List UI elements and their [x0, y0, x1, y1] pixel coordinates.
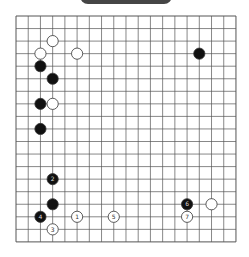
move-number: 5: [112, 213, 116, 220]
move-number: 7: [185, 213, 189, 220]
white-stone: 7: [181, 211, 192, 222]
white-stone: 1: [72, 211, 83, 222]
move-number: 1: [75, 213, 79, 220]
white-stone: [47, 98, 58, 109]
black-stone: [47, 73, 58, 84]
black-stone: [35, 61, 46, 72]
go-board[interactable]: 2431567: [0, 0, 249, 250]
white-stone: [72, 48, 83, 59]
black-stone: 2: [47, 174, 58, 185]
white-stone: [35, 48, 46, 59]
move-number: 2: [51, 175, 55, 182]
move-number: 6: [185, 200, 189, 207]
white-stone: [47, 36, 58, 47]
black-stone: [35, 123, 46, 134]
black-stone: [47, 199, 58, 210]
move-number: 4: [39, 213, 43, 220]
white-stone: [206, 199, 217, 210]
white-stone: 3: [47, 224, 58, 235]
diagram-caption: [0, 251, 249, 257]
black-stone: 6: [181, 199, 192, 210]
black-stone: [194, 48, 205, 59]
move-number: 3: [51, 226, 55, 233]
black-stone: [35, 98, 46, 109]
white-stone: 5: [108, 211, 119, 222]
black-stone: 4: [35, 211, 46, 222]
